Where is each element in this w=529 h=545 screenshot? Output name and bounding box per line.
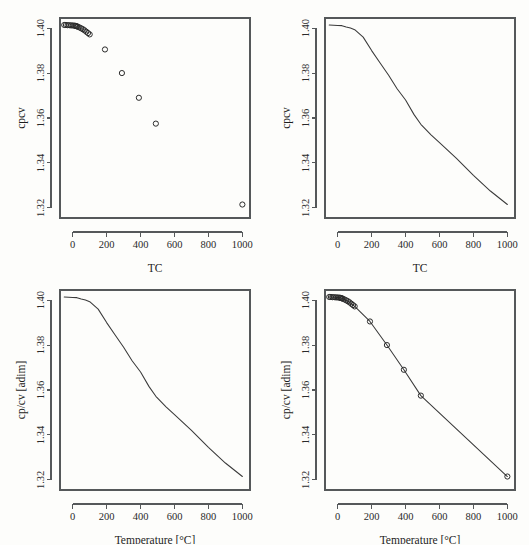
x-axis-title: TC <box>148 262 163 272</box>
data-point-marker <box>136 95 141 100</box>
x-axis-tick-label: 400 <box>398 239 414 250</box>
x-axis-tick-label: 1000 <box>497 511 518 522</box>
x-axis-tick-label: 600 <box>432 239 448 250</box>
y-axis-tick-label: 1.32 <box>35 199 46 217</box>
x-axis-tick-label: 800 <box>201 511 217 522</box>
y-axis-tick-label: 1.34 <box>35 153 46 172</box>
y-axis-tick-label: 1.40 <box>35 19 46 37</box>
y-axis-tick-label: 1.40 <box>300 19 311 37</box>
data-point-marker <box>240 202 245 207</box>
y-axis-tick-label: 1.38 <box>300 64 311 82</box>
chart-panel-bottom-right: 02004006008001000Temperature [°C]1.321.3… <box>265 272 529 544</box>
x-axis-tick-label: 800 <box>466 511 482 522</box>
y-axis-title: cp/cv [adim] <box>15 361 28 419</box>
y-axis-tick-label: 1.32 <box>300 471 311 489</box>
chart-svg-bottom-right: 02004006008001000Temperature [°C]1.321.3… <box>265 272 529 544</box>
chart-panel-top-right: 02004006008001000TC1.321.341.361.381.40c… <box>265 0 529 272</box>
y-axis-tick-label: 1.32 <box>35 471 46 489</box>
y-axis-tick-label: 1.32 <box>300 199 311 217</box>
data-series-line <box>64 297 242 477</box>
x-axis-tick-label: 1000 <box>232 239 253 250</box>
chart-svg-top-right: 02004006008001000TC1.321.341.361.381.40c… <box>265 0 529 272</box>
x-axis-tick-label: 800 <box>201 239 217 250</box>
y-axis-tick-label: 1.40 <box>35 291 46 309</box>
x-axis-tick-label: 600 <box>432 511 448 522</box>
data-point-marker <box>102 47 107 52</box>
x-axis-tick-label: 800 <box>466 239 482 250</box>
y-axis-title: cp/cv [adim] <box>280 361 293 419</box>
plot-box <box>60 18 250 218</box>
data-point-marker <box>119 70 124 75</box>
x-axis-tick-label: 0 <box>70 511 75 522</box>
x-axis-tick-label: 0 <box>335 239 340 250</box>
y-axis-tick-label: 1.40 <box>300 291 311 309</box>
y-axis-title: cpcv <box>15 107 28 129</box>
figure-canvas: 02004006008001000TC1.321.341.361.381.40c… <box>0 0 529 545</box>
x-axis-tick-label: 0 <box>70 239 75 250</box>
x-axis-tick-label: 400 <box>398 511 414 522</box>
x-axis-tick-label: 1000 <box>232 511 253 522</box>
data-series-line <box>329 25 507 205</box>
y-axis-tick-label: 1.34 <box>300 425 311 444</box>
x-axis-tick-label: 200 <box>99 239 115 250</box>
chart-panel-bottom-left: 02004006008001000Temperature [°C]1.321.3… <box>0 272 264 544</box>
y-axis-tick-label: 1.36 <box>35 381 46 399</box>
x-axis-tick-label: 200 <box>364 511 380 522</box>
y-axis-tick-label: 1.38 <box>35 336 46 354</box>
data-series-line <box>329 297 507 477</box>
x-axis-title: Temperature [°C] <box>115 534 196 544</box>
y-axis-tick-label: 1.34 <box>35 425 46 444</box>
data-point-marker <box>153 121 158 126</box>
chart-svg-top-left: 02004006008001000TC1.321.341.361.381.40c… <box>0 0 264 272</box>
y-axis-title: cpcv <box>280 107 293 129</box>
x-axis-tick-label: 600 <box>167 511 183 522</box>
y-axis-tick-label: 1.36 <box>35 109 46 127</box>
x-axis-tick-label: 400 <box>133 239 149 250</box>
x-axis-tick-label: 0 <box>335 511 340 522</box>
y-axis-tick-label: 1.38 <box>35 64 46 82</box>
chart-panel-top-left: 02004006008001000TC1.321.341.361.381.40c… <box>0 0 264 272</box>
y-axis-tick-label: 1.38 <box>300 336 311 354</box>
y-axis-tick-label: 1.36 <box>300 109 311 127</box>
x-axis-title: TC <box>413 262 428 272</box>
plot-box <box>325 290 515 490</box>
chart-svg-bottom-left: 02004006008001000Temperature [°C]1.321.3… <box>0 272 264 544</box>
x-axis-tick-label: 200 <box>364 239 380 250</box>
x-axis-tick-label: 1000 <box>497 239 518 250</box>
x-axis-tick-label: 200 <box>99 511 115 522</box>
x-axis-tick-label: 400 <box>133 511 149 522</box>
x-axis-tick-label: 600 <box>167 239 183 250</box>
y-axis-tick-label: 1.36 <box>300 381 311 399</box>
x-axis-title: Temperature [°C] <box>380 534 461 544</box>
y-axis-tick-label: 1.34 <box>300 153 311 172</box>
